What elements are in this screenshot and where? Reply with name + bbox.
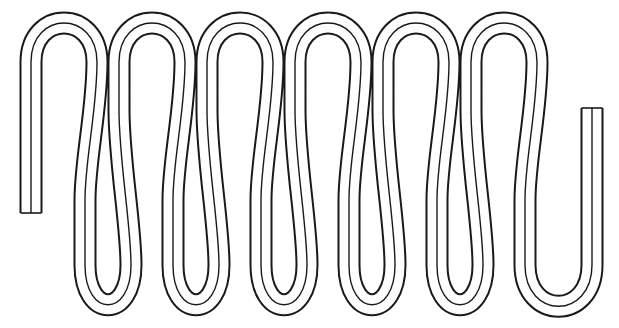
coil-outer-walls [31, 23, 592, 306]
serpentine-coil-diagram [0, 0, 619, 328]
diagram-canvas [0, 0, 619, 328]
